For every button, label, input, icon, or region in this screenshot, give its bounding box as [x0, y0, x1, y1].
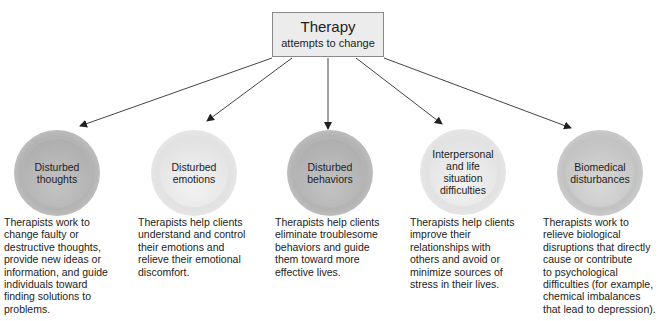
- description-emotions: Therapists help clients understand and c…: [138, 216, 245, 278]
- node-label: Biomedical disturbances: [570, 161, 630, 185]
- node-label: Disturbed emotions: [172, 161, 217, 185]
- node-disturbed-behaviors: Disturbed behaviors: [287, 130, 373, 216]
- description-biomedical: Therapists work to relieve biological di…: [543, 216, 656, 315]
- arrow-to-thoughts: [80, 58, 272, 126]
- arrow-to-emotions: [207, 58, 292, 121]
- node-interpersonal-difficulties: Interpersonal and life situation difficu…: [420, 129, 506, 215]
- therapy-diagram: Therapy attempts to change Disturbed tho…: [0, 0, 663, 321]
- therapy-box: Therapy attempts to change: [272, 12, 384, 57]
- therapy-title: Therapy: [273, 18, 383, 35]
- arrow-to-biomedical: [384, 58, 571, 128]
- description-interpersonal: Therapists help clients improve their re…: [410, 216, 514, 290]
- node-disturbed-emotions: Disturbed emotions: [151, 130, 237, 216]
- node-label: Disturbed behaviors: [307, 161, 353, 185]
- therapy-subtitle: attempts to change: [273, 37, 383, 50]
- node-disturbed-thoughts: Disturbed thoughts: [14, 130, 100, 216]
- node-label: Interpersonal and life situation difficu…: [432, 148, 493, 196]
- node-label: Disturbed thoughts: [35, 161, 80, 185]
- description-behaviors: Therapists help clients eliminate troubl…: [275, 216, 379, 278]
- node-biomedical-disturbances: Biomedical disturbances: [557, 130, 643, 216]
- description-thoughts: Therapists work to change faulty or dest…: [4, 216, 108, 315]
- arrow-to-interpersonal: [356, 58, 442, 124]
